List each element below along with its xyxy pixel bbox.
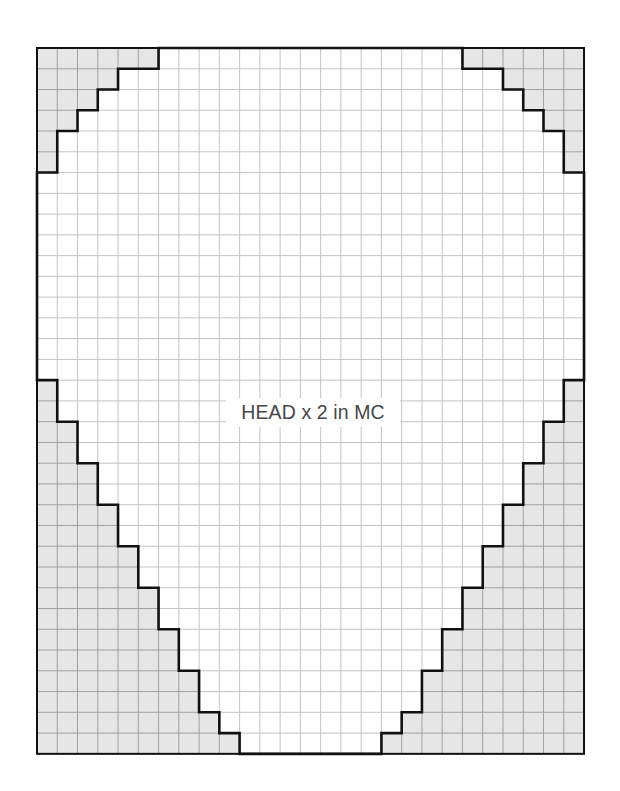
- chart-label: HEAD x 2 in MC: [241, 401, 384, 424]
- knitting-chart-grid: [0, 0, 620, 791]
- chart-label-box: HEAD x 2 in MC: [226, 398, 400, 427]
